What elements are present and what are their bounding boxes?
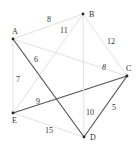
edge-weight-C-D: 5 [112, 103, 116, 112]
node-C [126, 75, 129, 78]
edge-weight-B-D: 10 [86, 108, 94, 117]
node-label-A: A [12, 27, 18, 36]
node-B [82, 13, 85, 16]
edge-weight-A-E: 7 [16, 75, 20, 84]
edge-weight-E-D: 15 [45, 126, 53, 135]
edge-weight-A-C: 8 [102, 63, 106, 72]
node-label-E: E [12, 116, 17, 125]
edge-weight-A-B: 8 [47, 15, 51, 24]
node-label-B: B [89, 10, 94, 19]
weighted-graph: 81112867910515ABCDE [0, 0, 136, 151]
node-label-C: C [126, 64, 131, 73]
edge-weight-A-D: 6 [34, 55, 38, 64]
edge-weight-B-E: 11 [60, 26, 68, 35]
edge-C-D [84, 76, 127, 137]
node-A [12, 38, 15, 41]
node-D [83, 136, 86, 139]
edge-weight-E-C: 9 [36, 97, 40, 106]
node-label-D: D [90, 133, 96, 142]
edge-weight-B-C: 12 [107, 37, 115, 46]
node-E [12, 112, 15, 115]
edge-B-E [13, 14, 83, 113]
edge-E-C [13, 76, 127, 113]
edge-A-D [13, 39, 84, 137]
edge-B-D [83, 14, 84, 137]
